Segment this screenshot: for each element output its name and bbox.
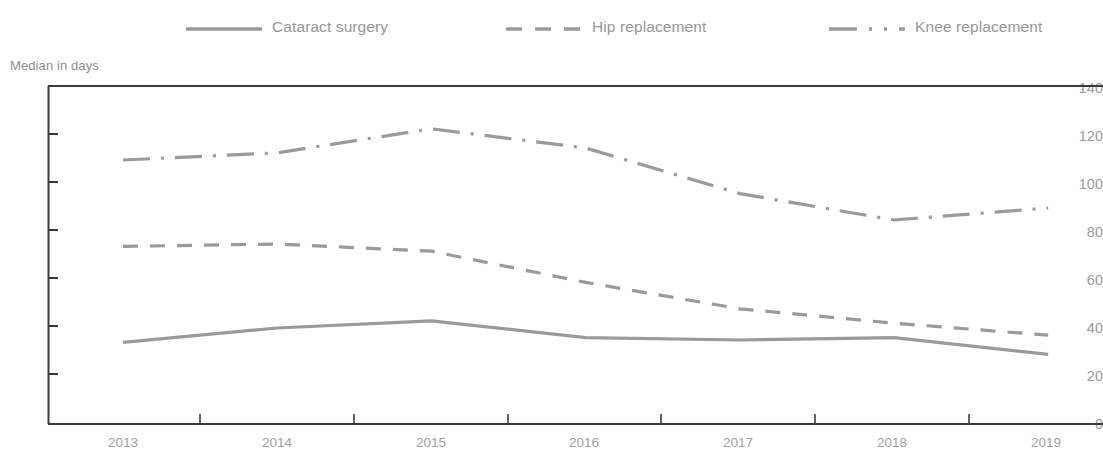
axis-frame — [48, 86, 1103, 424]
plot-area: 140 120 100 80 60 40 20 0 2013 2014 2015… — [0, 0, 1103, 464]
series-line-knee-replacement — [123, 129, 1048, 220]
y-tick-marks — [49, 134, 58, 374]
plot-canvas — [0, 0, 1103, 464]
x-tick-marks — [200, 414, 969, 424]
series-line-hip-replacement — [123, 244, 1048, 335]
line-chart: Cataract surgery Hip replacement Knee re… — [0, 0, 1103, 464]
series-layer — [123, 129, 1048, 355]
